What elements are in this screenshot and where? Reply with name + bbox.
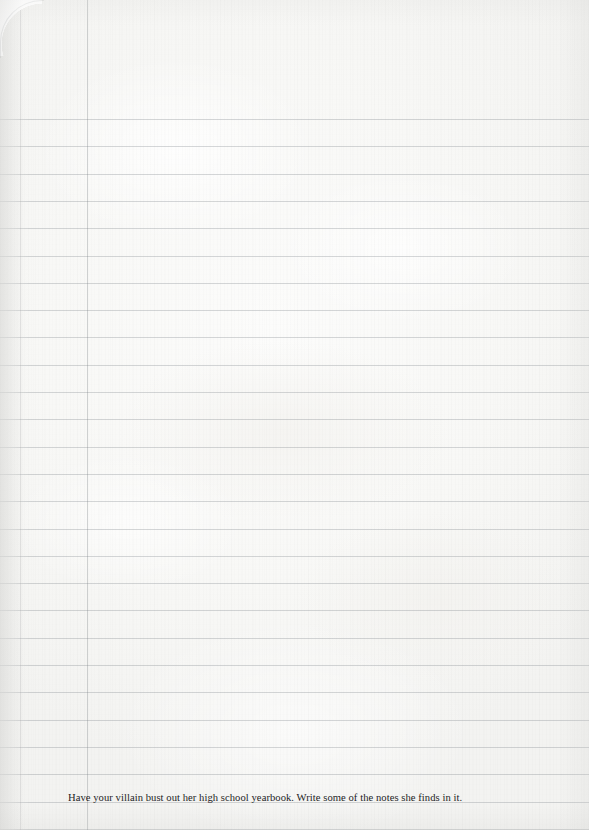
ruled-line — [0, 720, 589, 721]
margin-rule — [87, 0, 88, 830]
ruled-line — [0, 337, 589, 338]
ruled-line — [0, 474, 589, 475]
ruled-line — [0, 119, 589, 120]
ruled-line — [0, 392, 589, 393]
gutter-shading — [0, 0, 30, 830]
ruled-line — [0, 529, 589, 530]
ruled-line — [0, 747, 589, 748]
ruled-line — [0, 638, 589, 639]
ruled-line — [0, 774, 589, 775]
ruled-line — [0, 692, 589, 693]
ruled-line — [0, 146, 589, 147]
ruled-line — [0, 419, 589, 420]
writing-prompt-text: Have your villain bust out her high scho… — [68, 791, 462, 805]
ruled-line — [0, 256, 589, 257]
ruled-line — [0, 610, 589, 611]
ruled-line — [0, 665, 589, 666]
ruled-line — [0, 501, 589, 502]
ruled-line — [0, 365, 589, 366]
ruled-line — [0, 447, 589, 448]
ruled-line — [0, 201, 589, 202]
ruled-line — [0, 556, 589, 557]
notebook-page: Have your villain bust out her high scho… — [0, 0, 589, 830]
ruled-line — [0, 583, 589, 584]
ruled-line — [0, 310, 589, 311]
ruled-lines-group — [0, 0, 589, 830]
ruled-line — [0, 228, 589, 229]
ruled-line — [0, 283, 589, 284]
ruled-line — [0, 174, 589, 175]
